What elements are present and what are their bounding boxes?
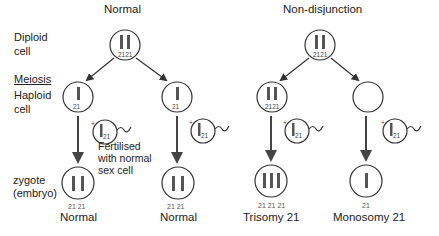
svg-text:+: + [91, 120, 95, 127]
svg-text:2121: 2121 [265, 103, 280, 110]
label-haploid: Haploid [14, 89, 51, 102]
svg-text:21: 21 [393, 132, 401, 139]
svg-text:21: 21 [73, 103, 81, 110]
svg-text:+: + [283, 119, 287, 126]
svg-text:21: 21 [295, 132, 303, 139]
sperm-cell-3 [285, 119, 309, 143]
haploid-cell-empty [353, 82, 383, 112]
outcome-trisomy: Trisomy 21 [243, 211, 299, 224]
svg-text:+: + [189, 119, 193, 126]
diagram-canvas: 2121 21 21 21 21 2121 2121 21 21 + + + + [0, 0, 439, 236]
svg-text:21: 21 [103, 133, 111, 140]
label-meiosis: Meiosis [14, 73, 51, 86]
note-fertilised: Fertilised with normal sex cell [98, 140, 152, 176]
outcome-normal-2: Normal [160, 211, 197, 224]
label-embryo: (embryo) [13, 187, 57, 200]
outcome-monosomy: Monosomy 21 [333, 211, 405, 224]
heading-nondisjunction: Non-disjunction [283, 3, 362, 16]
zygote-normal-1 [62, 167, 94, 199]
zygote-normal-2 [162, 167, 194, 199]
outcome-normal-1: Normal [60, 211, 97, 224]
svg-text:21: 21 [201, 132, 209, 139]
sperm-cell-2 [191, 119, 215, 143]
svg-text:2121: 2121 [313, 51, 328, 58]
svg-text:+: + [381, 119, 385, 126]
sperm-cell-4 [383, 119, 407, 143]
label-diploid-cell: cell [14, 45, 31, 58]
label-diploid: Diploid [14, 31, 48, 44]
label-haploid-cell: cell [14, 103, 31, 116]
svg-text:2121: 2121 [118, 51, 133, 58]
heading-normal: Normal [104, 3, 141, 16]
label-zygote: zygote [13, 174, 45, 187]
svg-text:21: 21 [172, 103, 180, 110]
